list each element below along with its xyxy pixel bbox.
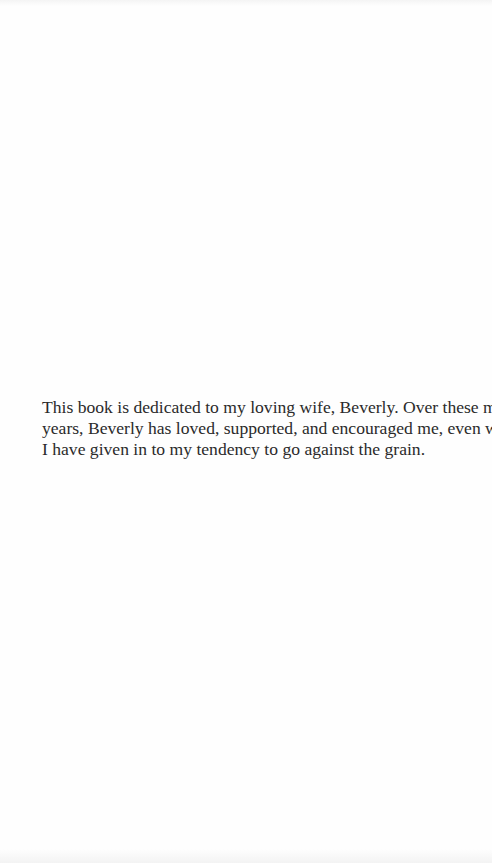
dedication-paragraph: This book is dedicated to my loving wife… — [42, 397, 482, 460]
dedication-line-2: years, Beverly has loved, supported, and… — [42, 418, 482, 439]
page-top-edge — [0, 0, 492, 6]
page-bottom-edge — [0, 849, 492, 863]
book-page: This book is dedicated to my loving wife… — [0, 0, 492, 863]
dedication-line-1: This book is dedicated to my loving wife… — [42, 397, 482, 418]
dedication-line-3: I have given in to my tendency to go aga… — [42, 439, 482, 460]
